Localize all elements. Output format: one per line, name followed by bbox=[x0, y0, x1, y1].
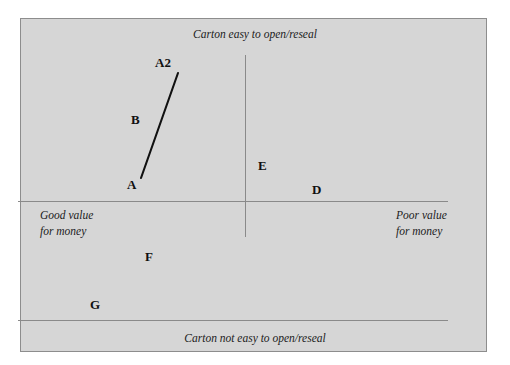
bottom-rule-line bbox=[18, 320, 448, 321]
brand-label-b: B bbox=[131, 112, 140, 128]
brand-label-a: A bbox=[127, 177, 136, 193]
axis-label-right-line2: for money bbox=[396, 224, 447, 240]
axis-label-right: Poor value for money bbox=[396, 208, 447, 239]
axis-label-bottom: Carton not easy to open/reseal bbox=[0, 331, 510, 347]
horizontal-axis-line bbox=[18, 201, 448, 202]
brand-label-f: F bbox=[145, 249, 153, 265]
axis-label-left-line1: Good value bbox=[40, 208, 93, 224]
brand-label-e: E bbox=[258, 158, 267, 174]
axis-label-bottom-text: Carton not easy to open/reseal bbox=[0, 331, 510, 347]
brand-label-d: D bbox=[312, 182, 321, 198]
axis-label-left-line2: for money bbox=[40, 224, 93, 240]
vertical-axis-line bbox=[245, 55, 246, 237]
axis-label-top: Carton easy to open/reseal bbox=[0, 27, 510, 43]
brand-label-g: G bbox=[90, 297, 100, 313]
axis-label-top-text: Carton easy to open/reseal bbox=[0, 27, 510, 43]
axis-label-right-line1: Poor value bbox=[396, 208, 447, 224]
brand-label-a2: A2 bbox=[155, 55, 171, 71]
perceptual-map-figure: Carton easy to open/reseal Carton not ea… bbox=[0, 0, 510, 365]
axis-label-left: Good value for money bbox=[40, 208, 93, 239]
